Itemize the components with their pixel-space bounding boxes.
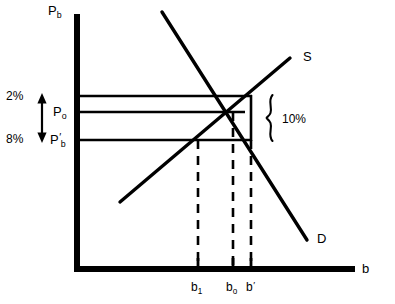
y-axis-label: Pb: [48, 4, 62, 17]
ten-percent-brace: [267, 95, 273, 141]
price-label-p0: Po: [53, 105, 67, 118]
quantity-label-b0: bo: [226, 281, 237, 293]
annotation-8-percent: 8%: [6, 133, 23, 145]
annotation-10-percent: 10%: [282, 113, 306, 125]
supply-demand-figure: Pb b Po P′b 2% 8% 10% S D b1 bo b′: [0, 0, 395, 304]
quantity-label-b-prime: b′: [246, 281, 255, 293]
figure-canvas: [0, 0, 395, 304]
price-label-pb-prime: P′b: [50, 133, 66, 146]
x-axis-label: b: [362, 262, 369, 275]
quantity-label-b1: b1: [191, 281, 202, 293]
demand-curve-label: D: [317, 232, 326, 245]
annotation-2-percent: 2%: [6, 90, 23, 102]
demand-curve: [162, 12, 307, 240]
supply-curve-label: S: [303, 50, 312, 63]
percentage-double-arrow: [37, 93, 46, 143]
